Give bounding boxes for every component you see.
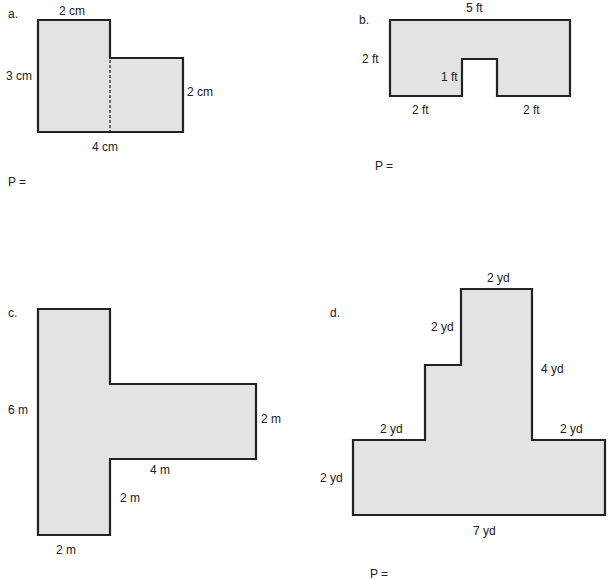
problem-d-label-ledge-left: 2 yd (380, 422, 403, 436)
problem-d-label-top: 2 yd (487, 271, 510, 285)
problem-b-letter: b. (359, 13, 369, 27)
problem-b-label-left: 2 ft (362, 52, 379, 66)
problem-b-label-top: 5 ft (466, 1, 483, 15)
problem-c-label-stem-right: 2 m (120, 491, 140, 505)
problem-a-label-top: 2 cm (59, 4, 85, 18)
problem-b-answer-prompt: P = (375, 159, 393, 173)
problem-d-label-upper-left: 2 yd (431, 320, 454, 334)
problem-d-label-bottom: 7 yd (473, 524, 496, 538)
problem-c: c. 6 m 2 m 4 m 2 m 2 m (8, 306, 281, 557)
problem-d-answer-prompt: P = (370, 567, 388, 580)
problem-d-shape (353, 289, 605, 515)
problem-c-letter: c. (8, 306, 17, 320)
problem-a-label-bottom: 4 cm (92, 140, 118, 154)
problem-c-shape (38, 309, 256, 535)
problem-d: d. 2 yd 2 yd 4 yd 2 yd 2 yd 2 yd 7 yd P … (320, 271, 605, 580)
problem-b: b. 5 ft 2 ft 1 ft 2 ft 2 ft P = (359, 1, 570, 173)
problem-a-label-right: 2 cm (187, 85, 213, 99)
worksheet-canvas: a. 2 cm 3 cm 2 cm 4 cm P = b. 5 ft 2 ft … (0, 0, 613, 580)
problem-b-label-bottom-left: 2 ft (412, 103, 429, 117)
problem-d-label-base-left: 2 yd (320, 471, 343, 485)
problem-d-label-ledge-right: 2 yd (560, 422, 583, 436)
problem-c-label-arm-right: 2 m (261, 412, 281, 426)
problem-d-letter: d. (330, 306, 340, 320)
problem-a-letter: a. (8, 7, 18, 21)
problem-a-label-left: 3 cm (6, 69, 32, 83)
problem-c-label-bottom: 2 m (56, 543, 76, 557)
problem-b-label-notch: 1 ft (441, 70, 458, 84)
problem-b-label-bottom-right: 2 ft (523, 103, 540, 117)
problem-d-label-tower-right: 4 yd (541, 362, 564, 376)
problem-a: a. 2 cm 3 cm 2 cm 4 cm P = (6, 4, 213, 189)
problem-c-label-left: 6 m (8, 403, 28, 417)
problem-a-answer-prompt: P = (8, 175, 26, 189)
problem-c-label-arm-bottom: 4 m (150, 463, 170, 477)
problem-b-shape (390, 20, 570, 96)
